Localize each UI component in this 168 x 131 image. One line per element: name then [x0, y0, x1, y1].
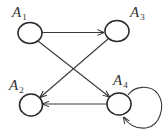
node-a3: [105, 21, 129, 42]
node-a2: [20, 94, 43, 116]
label-a1-subscript: 1: [22, 12, 27, 22]
label-a3-letter: A: [130, 4, 139, 20]
label-a2: A2: [9, 78, 24, 93]
label-a3-subscript: 3: [140, 12, 145, 22]
label-a3: A3: [130, 5, 145, 20]
node-a1: [18, 23, 42, 44]
edge-a3-to-a2: [40, 39, 108, 98]
label-a4-subscript: 4: [123, 80, 128, 90]
label-a4: A4: [113, 73, 128, 88]
node-a4: [107, 93, 131, 115]
label-a1-letter: A: [12, 4, 21, 20]
label-a1: A1: [12, 5, 27, 20]
label-a2-letter: A: [9, 77, 18, 93]
label-a4-letter: A: [113, 72, 122, 88]
label-a2-subscript: 2: [19, 85, 24, 95]
